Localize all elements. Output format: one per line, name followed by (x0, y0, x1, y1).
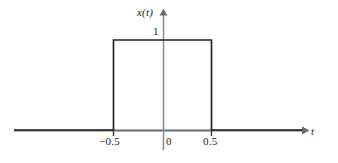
y-axis-arrowhead (160, 9, 168, 16)
pulse-waveform (14, 40, 302, 130)
tick-label-negative-half: −0.5 (99, 136, 120, 147)
y-axis-label: x(t) (137, 7, 153, 18)
x-axis-arrowhead (302, 126, 310, 134)
tick-label-positive-half: 0.5 (203, 136, 218, 147)
x-axis-label: t (311, 126, 314, 137)
figure-container: x(t) t 1 −0.5 0 0.5 (0, 0, 338, 163)
tick-label-zero: 0 (166, 136, 172, 147)
amplitude-label: 1 (153, 26, 159, 37)
